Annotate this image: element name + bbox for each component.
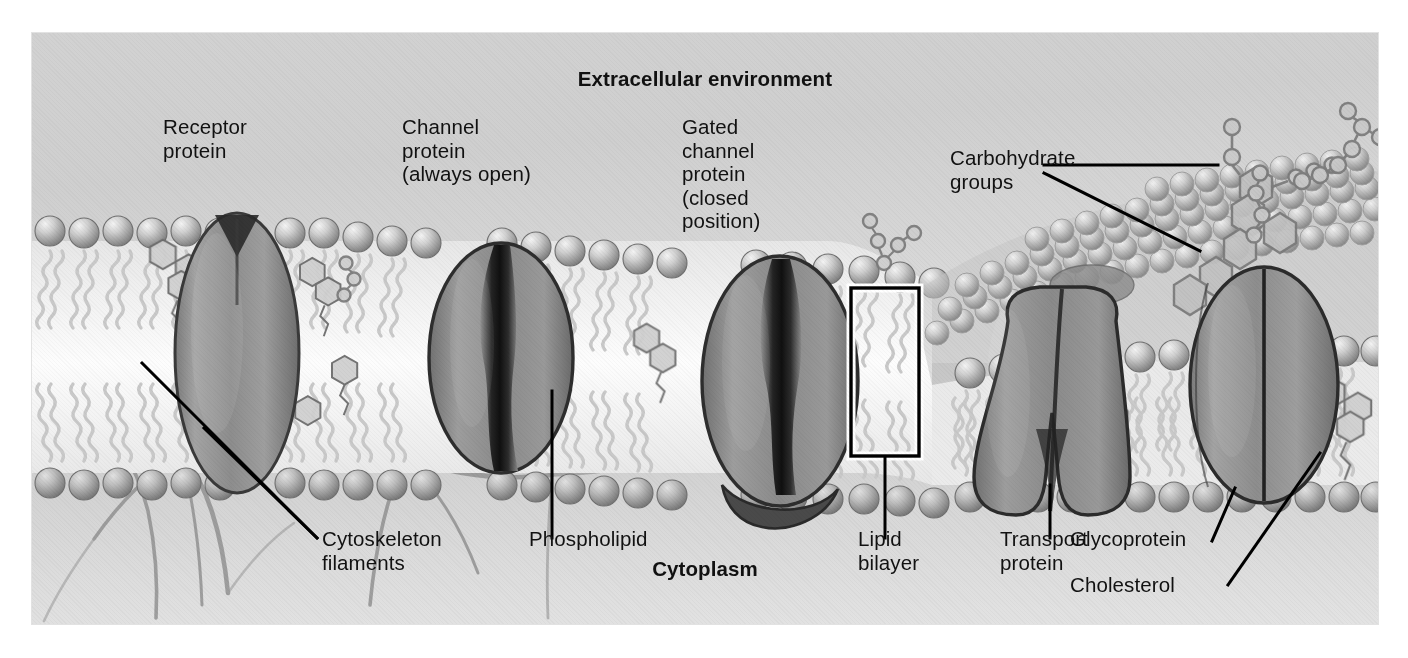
leader-cytoskeleton-2 <box>204 428 317 538</box>
leader-glycoprotein <box>1212 488 1235 541</box>
label-lipid-bilayer: Lipid bilayer <box>858 527 919 574</box>
cytoplasm-heading: Cytoplasm <box>32 557 1378 581</box>
label-phospholipid: Phospholipid <box>529 527 648 551</box>
membrane-illustration: Extracellular environment Cytoplasm Rece… <box>32 33 1378 624</box>
extracellular-environment-heading: Extracellular environment <box>32 67 1378 91</box>
figure-canvas: Extracellular environment Cytoplasm Rece… <box>0 0 1408 658</box>
label-carbohydrate-groups: Carbohydrate groups <box>950 146 1075 193</box>
label-glycoprotein: Glycoprotein <box>1070 527 1186 551</box>
label-receptor-protein: Receptor protein <box>163 115 247 162</box>
label-cholesterol: Cholesterol <box>1070 573 1175 597</box>
label-cytoskeleton-filaments: Cytoskeleton filaments <box>322 527 442 574</box>
label-channel-protein: Channel protein (always open) <box>402 115 531 186</box>
label-gated-channel-protein: Gated channel protein (closed position) <box>682 115 760 233</box>
